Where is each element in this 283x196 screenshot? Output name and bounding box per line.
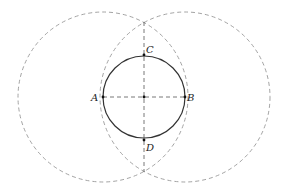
- label-b: B: [186, 92, 194, 103]
- diagram-canvas: ABCD: [0, 0, 283, 196]
- point-b: [184, 96, 187, 99]
- point-d: [143, 139, 146, 142]
- label-d: D: [145, 142, 154, 153]
- point-o: [143, 96, 146, 99]
- point-labels: ABCD: [90, 44, 194, 153]
- label-c: C: [146, 44, 154, 55]
- point-c: [143, 54, 146, 57]
- point-a: [102, 96, 105, 99]
- geometry-diagram: ABCD: [0, 0, 283, 196]
- label-a: A: [90, 92, 98, 103]
